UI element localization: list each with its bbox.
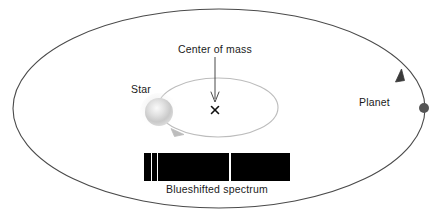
absorption-line [229, 153, 231, 181]
center-of-mass-marker-icon [212, 107, 219, 114]
star-body-icon [145, 98, 173, 126]
center-of-mass-label: Center of mass [178, 43, 252, 55]
diagram-canvas: Center of mass Star Planet Blueshifted s… [0, 0, 435, 221]
spectrum-caption-label: Blueshifted spectrum [144, 183, 290, 195]
planet-body-icon [419, 103, 429, 113]
star-label: Star [131, 83, 151, 95]
planet-label: Planet [359, 96, 390, 108]
blueshifted-spectrum-panel [144, 153, 290, 181]
absorption-line [151, 153, 152, 181]
planet-orbit-direction-arrow-icon [396, 69, 405, 82]
absorption-line [157, 153, 158, 181]
